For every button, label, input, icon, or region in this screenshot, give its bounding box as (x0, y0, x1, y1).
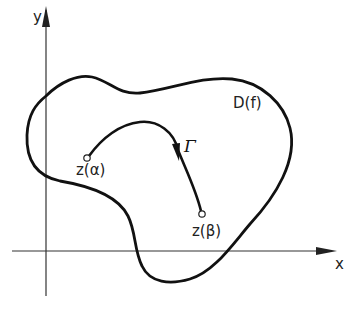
y-axis: y (33, 6, 50, 296)
complex-plane-diagram: y x D(f) Γ z(α) z(β) (0, 0, 352, 312)
start-point-label: z(α) (76, 161, 105, 179)
end-point-label: z(β) (192, 222, 221, 240)
x-axis-arrow-icon (316, 247, 337, 255)
x-axis-label: x (335, 255, 344, 273)
y-axis-arrow-icon (42, 6, 50, 27)
y-axis-label: y (33, 8, 42, 26)
end-point-marker (199, 211, 205, 217)
gamma-direction-arrow-icon (172, 143, 180, 161)
gamma-label: Γ (183, 136, 197, 156)
x-axis: x (12, 247, 344, 273)
region-label: D(f) (233, 94, 262, 112)
